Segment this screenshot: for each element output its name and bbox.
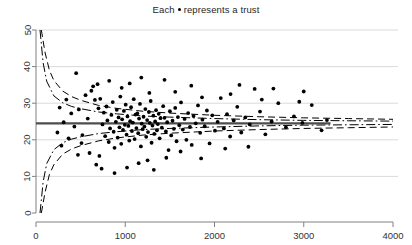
data-point <box>147 91 151 95</box>
data-point <box>107 140 111 144</box>
data-point <box>179 150 183 154</box>
data-point <box>168 109 172 113</box>
x-tick-label-0: 0 <box>33 230 38 241</box>
data-point <box>175 139 179 143</box>
y-tick-label-40: 40 <box>22 61 33 72</box>
data-point <box>181 128 185 132</box>
data-point <box>74 71 78 75</box>
data-point <box>198 131 202 135</box>
y-tick-label-50: 50 <box>22 25 33 36</box>
data-point <box>117 116 121 120</box>
data-point <box>190 143 194 147</box>
data-point <box>67 136 71 140</box>
data-point <box>100 167 104 171</box>
data-point <box>172 127 176 131</box>
data-point <box>137 161 141 165</box>
data-point <box>186 111 190 115</box>
x-tick-label-1000: 1000 <box>115 230 136 241</box>
data-point <box>235 105 239 109</box>
x-tick-label-3000: 3000 <box>293 230 314 241</box>
data-point <box>276 101 280 105</box>
data-point <box>238 83 242 87</box>
data-point <box>154 108 158 112</box>
data-point <box>94 163 98 167</box>
data-point <box>151 114 155 118</box>
data-point <box>115 108 119 112</box>
data-point <box>160 126 164 130</box>
data-point <box>69 112 73 116</box>
data-point <box>101 123 105 127</box>
data-point <box>189 84 193 88</box>
data-point <box>147 110 151 114</box>
data-point <box>143 125 147 129</box>
data-point <box>113 146 117 150</box>
data-point <box>135 126 139 130</box>
data-point <box>158 136 162 140</box>
data-point <box>222 127 226 131</box>
data-point <box>118 95 122 99</box>
y-tick-label-30: 30 <box>22 98 33 109</box>
data-point <box>165 120 169 124</box>
data-point <box>102 111 106 115</box>
data-point <box>88 151 92 155</box>
data-point <box>188 125 192 129</box>
data-point <box>173 106 177 110</box>
data-point <box>129 105 133 109</box>
y-tick-label-0: 0 <box>22 210 33 215</box>
data-point <box>247 145 251 149</box>
y-tick-label-10: 10 <box>22 171 33 182</box>
data-point <box>201 118 205 122</box>
data-point <box>133 137 137 141</box>
data-point <box>167 148 171 152</box>
data-point <box>127 139 131 143</box>
data-point <box>232 119 236 123</box>
data-point <box>192 114 196 118</box>
data-point <box>93 98 97 102</box>
data-point <box>110 113 114 117</box>
data-point <box>272 87 276 91</box>
data-point <box>292 114 296 118</box>
data-point <box>56 131 60 135</box>
data-point <box>80 141 84 145</box>
data-point <box>208 142 212 146</box>
data-point <box>96 82 100 86</box>
data-point <box>284 125 288 129</box>
data-point <box>146 130 150 134</box>
y-tick-label-20: 20 <box>22 135 33 146</box>
data-point <box>228 135 232 139</box>
data-point <box>270 120 274 124</box>
data-point <box>169 134 173 138</box>
data-point <box>164 129 168 133</box>
data-point <box>58 106 62 110</box>
data-point <box>310 103 314 107</box>
data-point <box>89 89 93 93</box>
data-point <box>86 117 90 121</box>
data-point <box>62 120 66 124</box>
data-point <box>125 133 129 137</box>
data-point <box>128 82 132 86</box>
data-point <box>131 121 135 125</box>
data-point <box>139 76 143 80</box>
data-point <box>98 97 102 101</box>
data-point <box>113 171 117 175</box>
data-point <box>135 112 139 116</box>
data-point <box>105 105 109 109</box>
data-point <box>64 98 68 102</box>
data-point <box>203 124 207 128</box>
data-point <box>205 109 209 113</box>
data-point <box>176 115 180 119</box>
data-point <box>253 87 257 91</box>
data-point <box>142 115 146 119</box>
data-point <box>229 92 233 96</box>
data-point <box>297 100 301 104</box>
data-point <box>111 100 115 104</box>
x-tick-label-2000: 2000 <box>204 230 225 241</box>
data-point <box>171 119 175 123</box>
data-point <box>325 118 329 122</box>
data-point <box>146 158 150 162</box>
data-point <box>159 116 163 120</box>
data-point <box>103 134 107 138</box>
data-point <box>106 119 110 123</box>
data-point <box>77 108 81 112</box>
data-point <box>302 90 306 94</box>
